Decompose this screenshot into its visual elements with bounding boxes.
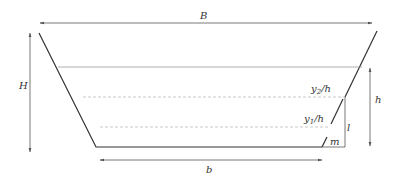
label-y2-over-h: y2/h: [310, 83, 331, 96]
label-y1-over-h: y1/h: [303, 113, 324, 126]
label-l: l: [347, 122, 350, 133]
label-B: B: [199, 10, 207, 21]
water-depth-dimension: h: [370, 68, 381, 146]
label-H: H: [18, 80, 28, 91]
top-width-dimension: B: [40, 10, 372, 23]
bottom-width-dimension: b: [100, 160, 322, 175]
label-h: h: [375, 94, 381, 105]
channel-cross-section-diagram: B H y2/h y1/h l m h b: [0, 0, 399, 180]
total-height-dimension: H: [18, 33, 30, 152]
label-b: b: [206, 164, 212, 175]
label-m: m: [330, 136, 339, 147]
